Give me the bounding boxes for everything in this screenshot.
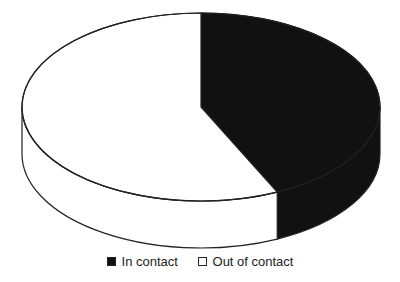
legend-swatch-out-of-contact (198, 257, 207, 266)
chart-legend: In contact Out of contact (0, 254, 400, 269)
legend-label: Out of contact (213, 254, 294, 269)
pie-chart-3d (0, 0, 400, 250)
legend-swatch-in-contact (107, 257, 116, 266)
legend-item-in-contact: In contact (107, 254, 178, 269)
legend-item-out-of-contact: Out of contact (198, 254, 294, 269)
legend-label: In contact (122, 254, 178, 269)
